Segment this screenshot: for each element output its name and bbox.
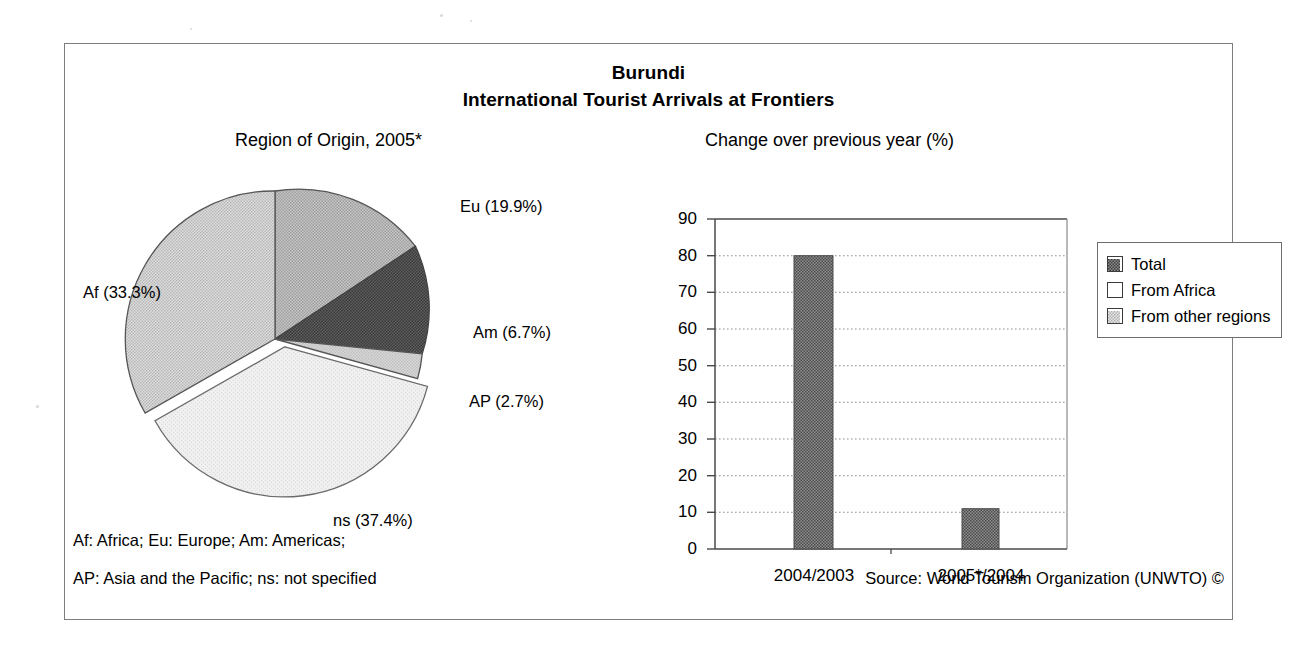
figure-title-series: International Tourist Arrivals at Fronti… xyxy=(65,89,1232,111)
scan-speckle xyxy=(440,14,443,17)
figure-title-country: Burundi xyxy=(65,62,1232,84)
pie-label-eu: Eu (19.9%) xyxy=(460,197,543,216)
swatch-fill-icon xyxy=(1108,311,1120,323)
pie-label-am: Am (6.7%) xyxy=(473,323,551,342)
legend-item-from-other-regions: From other regions xyxy=(1107,303,1272,329)
legend-item-total: Total xyxy=(1107,251,1272,277)
scan-speckle xyxy=(36,405,39,408)
bar-total-2004-2003 xyxy=(794,256,833,549)
bar-chart-graphic xyxy=(625,154,1235,554)
y-tick-label-50: 50 xyxy=(663,356,697,376)
bar-total-2005-2004 xyxy=(962,509,999,549)
footnote-abbreviations-line-2: AP: Asia and the Pacific; ns: not specif… xyxy=(73,569,377,588)
figure-frame: Burundi International Tourist Arrivals a… xyxy=(64,43,1233,620)
gridlines-horizontal xyxy=(715,256,1067,513)
footnote-abbreviations-line-1: Af: Africa; Eu: Europe; Am: Americas; xyxy=(73,531,345,550)
pie-chart-panel: Eu (19.9%) Af (33.3%) Am (6.7%) AP (2.7%… xyxy=(65,154,665,544)
bar-chart-subtitle: Change over previous year (%) xyxy=(705,130,954,151)
y-tick-label-60: 60 xyxy=(663,319,697,339)
pie-chart-graphic xyxy=(65,154,665,544)
y-axis-ticks xyxy=(707,219,715,549)
scan-speckle xyxy=(470,20,472,22)
legend-swatch-total xyxy=(1107,256,1123,272)
y-tick-label-70: 70 xyxy=(663,282,697,302)
pie-chart-subtitle: Region of Origin, 2005* xyxy=(235,130,422,151)
y-tick-label-40: 40 xyxy=(663,392,697,412)
x-category-label-2004-2003: 2004/2003 xyxy=(753,566,875,586)
scan-speckle xyxy=(190,28,192,30)
y-tick-label-80: 80 xyxy=(663,246,697,266)
y-tick-label-10: 10 xyxy=(663,502,697,522)
legend-swatch-from-other-regions xyxy=(1107,308,1123,324)
pie-label-af: Af (33.3%) xyxy=(83,283,161,302)
pie-label-ap: AP (2.7%) xyxy=(469,392,544,411)
legend-label-from-africa: From Africa xyxy=(1131,281,1215,300)
source-note: Source: World Tourism Organization (UNWT… xyxy=(865,569,1224,588)
y-tick-label-0: 0 xyxy=(663,539,697,559)
scanned-page: Burundi International Tourist Arrivals a… xyxy=(0,0,1291,658)
legend-label-from-other-regions: From other regions xyxy=(1131,307,1270,326)
legend-swatch-from-africa xyxy=(1107,282,1123,298)
y-tick-label-20: 20 xyxy=(663,466,697,486)
y-tick-label-90: 90 xyxy=(663,209,697,229)
bar-chart-legend: Total From Africa xyxy=(1097,242,1282,338)
bar-chart-panel: 90 80 70 60 50 40 30 20 10 0 2004/2003 2… xyxy=(625,154,1235,554)
pie-label-ns: ns (37.4%) xyxy=(333,511,413,530)
swatch-fill-icon xyxy=(1108,259,1120,271)
y-tick-label-30: 30 xyxy=(663,429,697,449)
legend-label-total: Total xyxy=(1131,255,1166,274)
legend-item-from-africa: From Africa xyxy=(1107,277,1272,303)
